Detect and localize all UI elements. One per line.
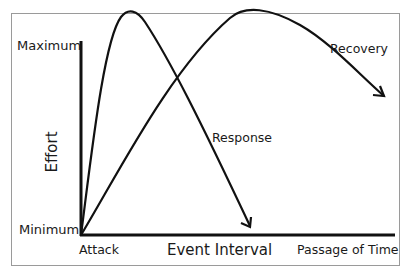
x-axis-title: Event Interval [167, 243, 272, 258]
y-min-label: Minimum [19, 223, 79, 236]
response-label: Response [212, 132, 272, 145]
x-end-label: Passage of Time [297, 244, 399, 257]
y-max-label: Maximum [17, 39, 81, 52]
x-start-label: Attack [79, 244, 119, 257]
y-axis-title: Effort [45, 131, 60, 172]
recovery-label: Recovery [330, 43, 388, 56]
response-curve [81, 11, 250, 235]
